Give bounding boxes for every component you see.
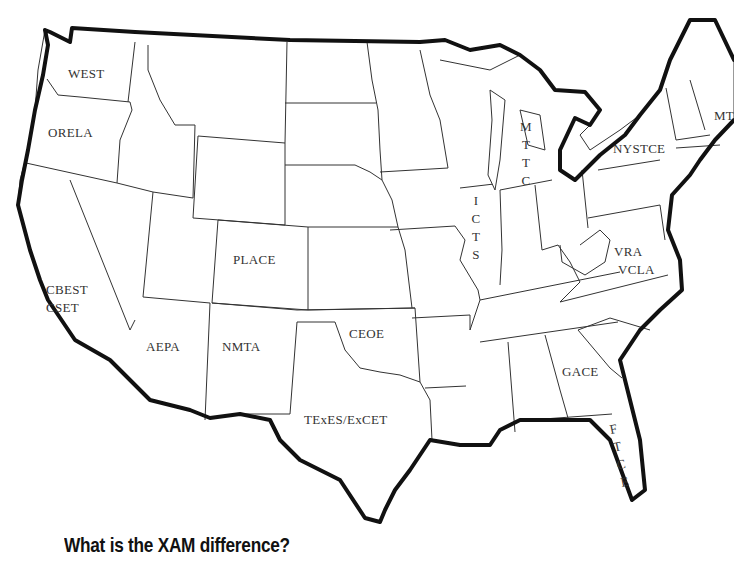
label-michigan: M T T C (519, 118, 533, 190)
label-illinois-4: S (469, 246, 483, 264)
label-michigan-3: T (519, 154, 533, 172)
label-michigan-2: T (519, 136, 533, 154)
label-michigan-1: M (519, 118, 533, 136)
label-illinois-2: C (469, 210, 483, 228)
caption: What is the XAM difference? (64, 533, 290, 557)
label-oklahoma: CEOE (349, 327, 384, 340)
label-virginia-vra: VRA (614, 245, 642, 258)
label-washington: WEST (68, 67, 105, 80)
label-new-mexico: NMTA (222, 340, 260, 353)
label-illinois: I C T S (469, 192, 483, 264)
label-illinois-3: T (469, 228, 483, 246)
label-georgia: GACE (562, 365, 599, 378)
label-california-cset: CSET (46, 301, 79, 314)
label-massachusetts: MT (714, 109, 734, 122)
label-california-cbest: CBEST (46, 283, 88, 296)
label-new-york: NYSTCE (613, 142, 665, 155)
label-oregon: ORELA (48, 126, 93, 139)
label-illinois-1: I (469, 192, 483, 210)
label-michigan-4: C (519, 172, 533, 190)
label-arizona: AEPA (146, 340, 180, 353)
label-colorado: PLACE (233, 253, 276, 266)
label-texas: TExES/ExCET (304, 413, 387, 426)
label-virginia-vcla: VCLA (618, 263, 655, 276)
